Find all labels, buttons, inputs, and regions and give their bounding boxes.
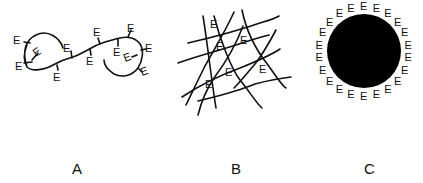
panel-label-c: C [364, 160, 375, 177]
e-group: E [405, 51, 412, 63]
panel-c: EEEEEEEEEEEEEEEEEEEEEE [316, 0, 412, 102]
e-group: E [326, 16, 333, 28]
network-strands [178, 10, 291, 115]
e-group: E [205, 78, 212, 90]
e-group: E [122, 50, 133, 64]
solid-particle [327, 14, 401, 88]
e-group: E [127, 22, 134, 34]
panel-a: E E E E E E E E E E E E [13, 22, 152, 83]
e-group: E [336, 7, 343, 19]
e-group: E [316, 39, 323, 51]
e-group: E [13, 34, 20, 46]
e-group: E [336, 83, 343, 95]
e-group: E [384, 83, 391, 95]
e-group: E [326, 75, 333, 87]
e-group: E [316, 51, 323, 63]
e-group: E [373, 88, 380, 100]
e-group: E [93, 26, 100, 38]
e-group: E [113, 46, 120, 58]
panel-b: E E E E E E [178, 10, 291, 115]
e-group: E [394, 75, 401, 87]
e-group: E [30, 45, 43, 59]
e-group: E [86, 55, 93, 67]
e-group: E [259, 63, 266, 75]
e-group: E [139, 64, 150, 78]
e-group: E [63, 42, 70, 54]
e-group: E [216, 40, 223, 52]
e-group: E [401, 64, 408, 76]
e-group: E [347, 2, 354, 14]
e-group: E [319, 26, 326, 38]
e-group: E [384, 7, 391, 19]
diagram-canvas: E E E E E E E E E E E E E [0, 0, 423, 183]
e-group: E [360, 0, 367, 12]
e-group: E [347, 88, 354, 100]
panel-label-b: B [231, 160, 241, 177]
e-group: E [15, 60, 22, 72]
e-group: E [373, 2, 380, 14]
e-group: E [225, 66, 232, 78]
e-group: E [360, 90, 367, 102]
panel-label-a: A [72, 160, 82, 177]
e-group: E [240, 34, 247, 46]
e-group: E [210, 18, 217, 30]
e-group: E [405, 39, 412, 51]
e-group: E [145, 42, 152, 54]
e-group: E [401, 26, 408, 38]
e-group: E [319, 64, 326, 76]
e-group: E [53, 71, 60, 83]
